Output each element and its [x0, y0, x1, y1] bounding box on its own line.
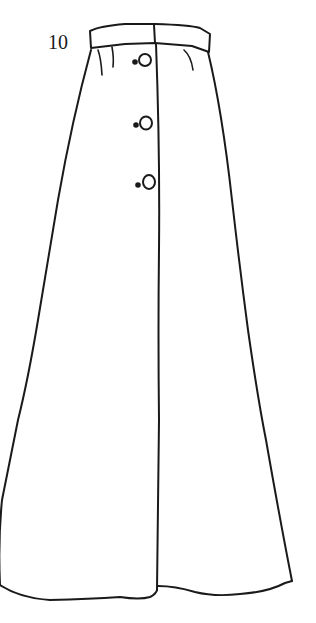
waist-gathers: [98, 47, 193, 75]
hem-right: [158, 581, 292, 595]
button-1: [133, 54, 151, 66]
left-side-seam: [0, 50, 91, 585]
button-3: [136, 175, 155, 189]
front-buttons: [133, 54, 155, 189]
skirt-illustration: [0, 0, 316, 623]
center-front-line: [156, 44, 159, 590]
hem-left: [0, 585, 157, 600]
right-side-seam: [208, 52, 292, 581]
waistband: [90, 24, 210, 52]
button-2: [134, 117, 152, 130]
